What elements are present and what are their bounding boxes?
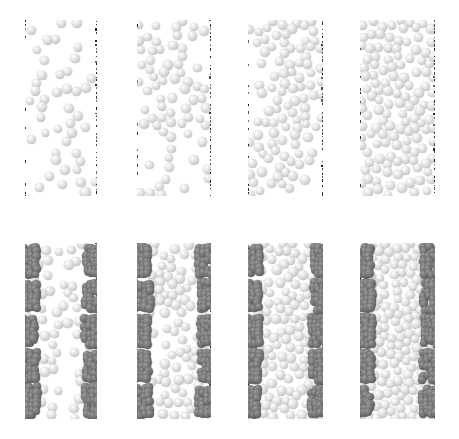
particle — [81, 83, 90, 92]
patch-grain — [433, 305, 435, 313]
particle — [254, 118, 262, 126]
particle — [288, 399, 297, 408]
particle — [200, 85, 208, 93]
particle — [184, 130, 192, 138]
particle — [189, 95, 199, 105]
particle — [277, 386, 287, 396]
particle — [157, 190, 166, 196]
particle — [278, 20, 288, 30]
particle — [375, 29, 385, 39]
particle — [378, 360, 388, 370]
patch-grain — [255, 268, 264, 277]
particle — [146, 56, 155, 65]
wall-rough-patch — [360, 351, 373, 380]
particle — [411, 45, 421, 55]
particle — [369, 20, 378, 26]
particle — [181, 323, 189, 331]
particle — [155, 182, 164, 191]
particle — [393, 89, 401, 97]
particle — [412, 133, 422, 143]
particle — [156, 45, 165, 54]
particle — [278, 114, 287, 123]
simulation-panel-4 — [360, 20, 435, 196]
particle — [143, 87, 151, 95]
particle — [360, 122, 367, 131]
particle — [27, 135, 36, 144]
particle — [73, 304, 81, 312]
figure-canvas — [0, 0, 459, 439]
particle — [266, 289, 274, 297]
particle — [409, 386, 417, 394]
patch-grain — [29, 334, 39, 344]
particle — [267, 179, 276, 188]
particle — [261, 35, 269, 43]
wall-rough-patch — [313, 245, 323, 277]
particle — [178, 336, 187, 345]
wall-rough-patch — [423, 316, 435, 346]
particle — [271, 314, 281, 324]
particle — [363, 148, 372, 157]
particle — [166, 263, 175, 272]
particle — [403, 396, 413, 406]
particle — [410, 188, 419, 196]
particle — [174, 398, 183, 407]
particle — [55, 387, 63, 395]
patch-grain — [208, 335, 211, 344]
wall-rough-patch — [248, 387, 259, 416]
patch-grain — [32, 407, 40, 415]
particle — [305, 156, 313, 164]
particle — [372, 165, 381, 174]
particle — [190, 23, 198, 31]
particle — [62, 137, 70, 145]
particle — [295, 370, 304, 379]
particle — [257, 59, 266, 68]
patch-grain — [253, 375, 262, 384]
particle — [137, 188, 145, 196]
particle — [373, 390, 383, 400]
particle — [269, 119, 278, 128]
patch-grain — [94, 287, 97, 296]
particle — [266, 245, 274, 253]
channel-region — [137, 20, 211, 196]
particle — [70, 348, 80, 358]
particle — [81, 123, 90, 132]
particle — [278, 136, 288, 146]
wall-boundary-right — [322, 20, 323, 196]
particle — [375, 96, 383, 104]
particle — [53, 349, 61, 357]
particle — [167, 145, 175, 153]
particle — [170, 327, 179, 336]
particle — [295, 160, 304, 169]
wall-rough-patch — [197, 246, 211, 276]
patch-grain — [94, 411, 97, 419]
particle — [268, 255, 277, 264]
particle — [172, 363, 181, 372]
particle — [38, 316, 46, 324]
particle — [295, 322, 304, 331]
particle — [286, 343, 295, 352]
particle — [189, 155, 199, 165]
patch-grain — [143, 340, 152, 349]
particle — [69, 294, 77, 302]
patch-grain — [208, 409, 211, 417]
particle — [160, 359, 170, 369]
particle — [275, 57, 284, 66]
particle — [306, 81, 315, 90]
particle — [374, 246, 383, 255]
particle — [162, 341, 170, 349]
particle — [379, 66, 388, 75]
wall-rough-patch — [248, 282, 260, 310]
particle — [422, 126, 430, 134]
particle — [383, 389, 392, 398]
particle — [152, 82, 160, 90]
particle — [52, 308, 62, 318]
particle — [44, 271, 53, 280]
particle — [73, 111, 83, 121]
particle — [42, 129, 50, 137]
particle — [69, 404, 79, 414]
particle — [392, 140, 402, 150]
wall-rough-patch — [25, 385, 39, 417]
wall-rough-patch — [85, 282, 97, 311]
particle — [168, 41, 178, 51]
particle — [188, 362, 196, 370]
